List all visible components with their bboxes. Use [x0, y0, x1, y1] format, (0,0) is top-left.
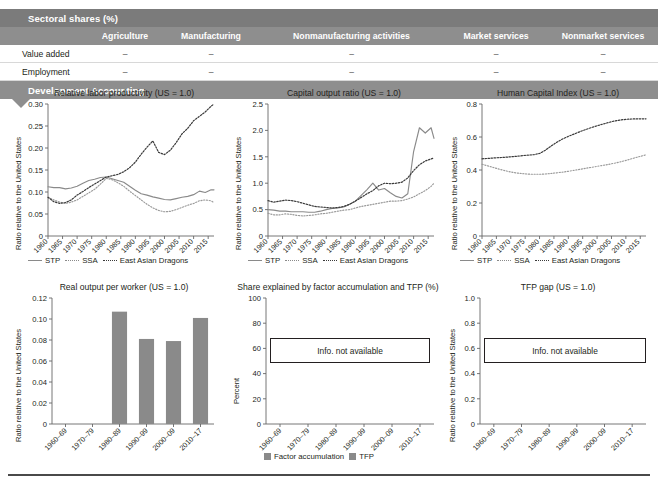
legend-line-dotted-fine-icon — [285, 260, 299, 261]
column-header-nonmanufacturing-activities: Nonmanufacturing activities — [259, 31, 444, 41]
svg-text:2015: 2015 — [412, 237, 430, 255]
svg-text:1985: 1985 — [538, 237, 556, 255]
chart-title: Human Capital Index (US = 1.0) — [462, 88, 654, 98]
svg-text:1990–99: 1990–99 — [554, 426, 580, 452]
y-axis-label: Ratio relative to the United States — [234, 137, 243, 250]
table-column-header-row: Agriculture Manufacturing Nonmanufacturi… — [0, 27, 658, 45]
chart-title: Relative labor productivity (US = 1.0) — [26, 88, 222, 98]
legend-label-tfp: TFP — [359, 452, 374, 461]
svg-text:0.4: 0.4 — [466, 166, 477, 175]
legend-item-east-asian-dragons: East Asian Dragons — [535, 256, 620, 265]
svg-text:0.8: 0.8 — [464, 319, 475, 328]
svg-text:2000: 2000 — [148, 237, 166, 255]
column-header-manufacturing: Manufacturing — [163, 31, 259, 41]
svg-text:80: 80 — [253, 319, 261, 328]
svg-text:0.5: 0.5 — [252, 205, 263, 214]
svg-text:1.0: 1.0 — [252, 179, 263, 188]
column-header-market-services: Market services — [444, 31, 548, 41]
y-axis-label: Ratio relative to the United States — [14, 329, 23, 442]
svg-text:0.12: 0.12 — [32, 294, 47, 303]
svg-text:2.0: 2.0 — [252, 126, 263, 135]
legend-label-ssa: SSA — [82, 256, 98, 265]
column-header-spacer — [0, 31, 87, 41]
cell-employment-manufacturing: – — [163, 67, 259, 77]
cell-employment-nonmarket-services: – — [548, 67, 658, 77]
chart-share-factor-accumulation-tfp: Share explained by factor accumulation a… — [228, 282, 442, 468]
svg-text:100: 100 — [248, 294, 261, 303]
cell-employment-market-services: – — [444, 67, 548, 77]
svg-text:1995: 1995 — [354, 237, 372, 255]
svg-text:1980–89: 1980–89 — [96, 426, 122, 452]
cell-value-added-agriculture: – — [87, 49, 163, 59]
svg-text:1980–89: 1980–89 — [526, 426, 552, 452]
svg-text:1960: 1960 — [252, 237, 270, 255]
svg-text:1.5: 1.5 — [252, 153, 263, 162]
svg-text:1.0: 1.0 — [464, 294, 475, 303]
column-header-agriculture: Agriculture — [87, 31, 163, 41]
charts-grid: Relative labor productivity (US = 1.0) R… — [0, 86, 658, 471]
svg-text:0: 0 — [257, 420, 261, 429]
legend-item-stp: STP — [460, 256, 492, 265]
svg-text:1970–79: 1970–79 — [285, 426, 311, 452]
svg-text:1980: 1980 — [90, 237, 108, 255]
svg-text:2000–09: 2000–09 — [369, 426, 395, 452]
sectoral-shares-header-band: Sectoral shares (%) — [0, 9, 658, 27]
svg-text:2000: 2000 — [581, 237, 599, 255]
svg-text:0.08: 0.08 — [32, 336, 47, 345]
svg-text:2.5: 2.5 — [252, 100, 263, 109]
svg-text:1960: 1960 — [32, 237, 50, 255]
svg-text:1990: 1990 — [119, 237, 137, 255]
svg-text:1975: 1975 — [75, 237, 93, 255]
row-label-employment: Employment — [0, 67, 87, 77]
svg-text:1990: 1990 — [552, 237, 570, 255]
chart-plot-area: Ratio relative to the United States 00.0… — [8, 98, 222, 273]
svg-text:1960–69: 1960–69 — [257, 426, 283, 452]
info-not-available-box: Info. not available — [270, 338, 430, 363]
svg-text:0.06: 0.06 — [32, 357, 47, 366]
svg-text:0.20: 0.20 — [28, 144, 43, 153]
legend-label-ssa: SSA — [302, 256, 318, 265]
legend-item-tfp: TFP — [349, 452, 374, 461]
info-not-available-box: Info. not available — [484, 338, 646, 363]
legend-item-ssa: SSA — [65, 256, 98, 265]
svg-text:0: 0 — [471, 420, 475, 429]
svg-text:1965: 1965 — [266, 237, 284, 255]
chart-legend: STP SSA East Asian Dragons — [248, 256, 408, 265]
chart-title: Real output per worker (US = 1.0) — [26, 282, 222, 292]
chart-tfp-gap: TFP gap (US = 1.0) Ratio relative to the… — [444, 282, 654, 468]
svg-text:2015: 2015 — [624, 237, 642, 255]
svg-text:2005: 2005 — [163, 237, 181, 255]
svg-text:1970: 1970 — [494, 237, 512, 255]
chart-real-output-per-worker: Real output per worker (US = 1.0) Ratio … — [8, 282, 222, 468]
legend-item-stp: STP — [248, 256, 280, 265]
legend-item-ssa: SSA — [497, 256, 530, 265]
svg-text:2010–17: 2010–17 — [397, 426, 423, 452]
svg-text:0.30: 0.30 — [28, 100, 43, 109]
table-row: Value added – – – – – — [0, 45, 658, 63]
legend-line-solid-icon — [248, 260, 262, 261]
svg-text:1990: 1990 — [339, 237, 357, 255]
svg-text:1970–79: 1970–79 — [69, 426, 95, 452]
svg-text:1980: 1980 — [310, 237, 328, 255]
legend-label-stp: STP — [45, 256, 60, 265]
svg-text:1990–99: 1990–99 — [123, 426, 149, 452]
legend-line-dotted-fine-icon — [497, 260, 511, 261]
chart-plot-area: Ratio relative to the United States 00.2… — [444, 98, 654, 273]
legend-label-stp: STP — [265, 256, 280, 265]
svg-text:1995: 1995 — [134, 237, 152, 255]
bottom-divider — [8, 474, 650, 476]
svg-text:0.8: 0.8 — [466, 100, 477, 109]
legend-line-dotted-wide-icon — [323, 260, 337, 261]
svg-text:0.2: 0.2 — [466, 199, 477, 208]
y-axis-label: Ratio relative to the United States — [14, 137, 23, 250]
cell-value-added-nonmarket-services: – — [548, 49, 658, 59]
chart-title: TFP gap (US = 1.0) — [462, 282, 654, 292]
svg-text:2000: 2000 — [368, 237, 386, 255]
svg-text:20: 20 — [253, 395, 261, 404]
legend-item-east-asian-dragons: East Asian Dragons — [323, 256, 408, 265]
chart-plot-area: Ratio relative to the United States 00.5… — [228, 98, 442, 273]
table-row: Employment – – – – – — [0, 63, 658, 81]
svg-text:2010–17: 2010–17 — [609, 426, 635, 452]
legend-line-solid-icon — [28, 260, 42, 261]
svg-text:60: 60 — [253, 344, 261, 353]
